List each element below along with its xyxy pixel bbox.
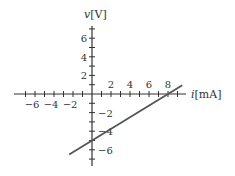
x-tick-label: 6 bbox=[146, 79, 152, 90]
y-tick-label: −2 bbox=[98, 108, 113, 119]
series-line bbox=[69, 85, 182, 154]
x-tick-label: 4 bbox=[127, 79, 133, 90]
v-i-chart: −6−4−22468−6−2246−4 i[mA] v[V] bbox=[0, 0, 235, 176]
y-axis-label: v[V] bbox=[84, 8, 107, 21]
x-tick-label: −6 bbox=[25, 99, 40, 110]
x-axis-label: i[mA] bbox=[191, 88, 222, 101]
y-tick-label: 4 bbox=[81, 52, 87, 63]
y-tick-label: −6 bbox=[98, 145, 113, 156]
x-tick-label: −4 bbox=[44, 99, 59, 110]
data-series bbox=[69, 85, 182, 154]
y-tick-label: 6 bbox=[81, 33, 87, 44]
x-tick-label: 2 bbox=[108, 79, 114, 90]
y-tick-label: 2 bbox=[81, 70, 87, 81]
x-tick-label: −2 bbox=[63, 99, 78, 110]
x-tick-label: 8 bbox=[165, 79, 171, 90]
